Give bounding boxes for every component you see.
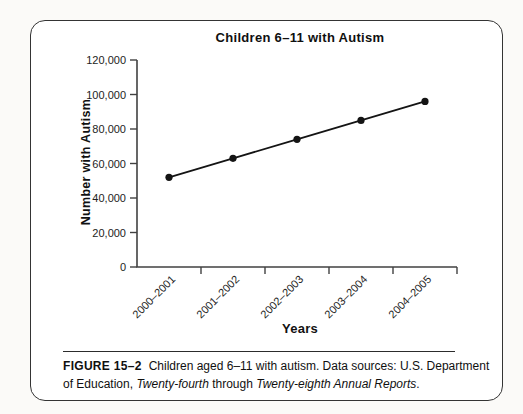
caption-text: of Education, — [63, 377, 136, 391]
caption-text: Children aged 6–11 with autism. Data sou… — [149, 359, 490, 373]
y-tick-label: 120,000 — [86, 54, 126, 66]
x-tick-label: 2003–2004 — [322, 273, 369, 320]
data-point — [229, 155, 236, 162]
y-tick-label: 100,000 — [86, 89, 126, 101]
caption-text: . — [416, 377, 419, 391]
caption-line-2: of Education, Twenty-fourth through Twen… — [63, 375, 475, 393]
data-point — [421, 98, 428, 105]
y-tick-label: 20,000 — [92, 227, 126, 239]
x-axis-title: Years — [137, 321, 463, 336]
figure-number-label: FIGURE 15–2 — [63, 359, 142, 373]
data-point — [165, 174, 172, 181]
x-tick-label: 2002–2003 — [258, 273, 305, 320]
axes — [137, 60, 457, 267]
y-tick-label: 80,000 — [92, 123, 126, 135]
caption-italic-text: Twenty-eighth Annual Reports — [256, 377, 416, 391]
x-tick-label: 2004–2005 — [386, 273, 433, 320]
y-tick-label: 60,000 — [92, 158, 126, 170]
caption-line-1: FIGURE 15–2Children aged 6–11 with autis… — [63, 357, 475, 375]
x-tick-label: 2000–2001 — [130, 273, 177, 320]
data-point — [293, 136, 300, 143]
y-tick-label: 0 — [120, 261, 126, 273]
y-tick-label: 40,000 — [92, 192, 126, 204]
figure-caption: FIGURE 15–2Children aged 6–11 with autis… — [63, 357, 475, 393]
data-point — [357, 117, 364, 124]
caption-text: through — [209, 377, 256, 391]
caption-italic-text: Twenty-fourth — [136, 377, 208, 391]
caption-divider — [63, 351, 455, 352]
x-tick-label: 2001–2002 — [194, 273, 241, 320]
